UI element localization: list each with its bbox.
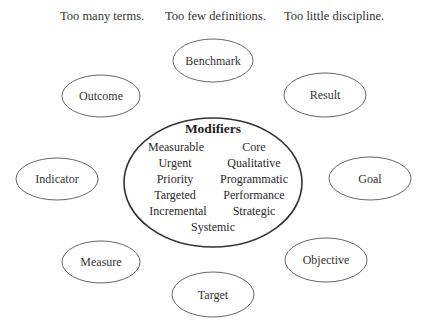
modifiers-title: Modifiers <box>185 121 241 137</box>
modifier-incremental: Incremental <box>149 204 206 219</box>
node-goal[interactable]: Goal <box>358 172 381 187</box>
modifier-targeted: Targeted <box>154 188 196 203</box>
modifier-systemic: Systemic <box>191 220 235 235</box>
modifier-performance: Performance <box>223 188 284 203</box>
diagram-canvas <box>0 0 425 329</box>
node-target[interactable]: Target <box>198 288 228 303</box>
modifier-programmatic: Programmatic <box>220 172 288 187</box>
modifier-qualitative: Qualitative <box>227 156 280 171</box>
modifier-core: Core <box>242 140 265 155</box>
node-benchmark[interactable]: Benchmark <box>185 54 240 69</box>
modifier-urgent: Urgent <box>158 156 191 171</box>
modifier-measurable: Measurable <box>148 140 204 155</box>
node-result[interactable]: Result <box>310 88 341 103</box>
node-outcome[interactable]: Outcome <box>79 89 123 104</box>
node-objective[interactable]: Objective <box>303 253 350 268</box>
modifier-priority: Priority <box>157 172 194 187</box>
modifier-strategic: Strategic <box>233 204 276 219</box>
node-indicator[interactable]: Indicator <box>35 172 78 187</box>
node-measure[interactable]: Measure <box>80 255 121 270</box>
